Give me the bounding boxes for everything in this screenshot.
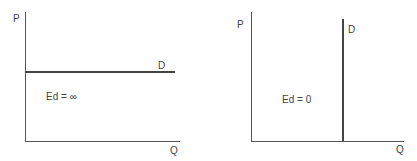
demand-label: D: [348, 25, 355, 35]
demand-curve-vertical: [342, 19, 344, 141]
quantity-axis-label: Q: [396, 145, 404, 155]
x-axis: [251, 141, 404, 142]
demand-curve-horizontal: [25, 71, 175, 73]
y-axis: [251, 12, 252, 142]
price-axis-label: P: [13, 14, 20, 24]
demand-label: D: [158, 61, 165, 71]
x-axis: [25, 141, 180, 142]
y-axis: [25, 12, 26, 142]
inelastic-demand-diagram: P D Ed = 0 Q: [209, 0, 417, 161]
elastic-demand-diagram: P D Ed = ∞ Q: [0, 0, 208, 161]
elasticity-annotation: Ed = 0: [282, 95, 311, 105]
price-axis-label: P: [237, 20, 244, 30]
quantity-axis-label: Q: [170, 146, 178, 156]
elasticity-annotation: Ed = ∞: [46, 92, 77, 102]
